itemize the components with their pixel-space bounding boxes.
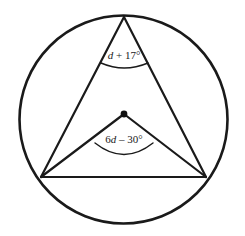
- radius-center-to-left-vertex: [41, 114, 124, 177]
- geometry-canvas: d + 17° 6d – 30°: [0, 0, 245, 236]
- central-angle-label-expression-tail: – 30°: [116, 133, 142, 145]
- circle-outline: [20, 16, 228, 224]
- central-angle-arc-marker: [95, 143, 153, 155]
- circle-geometry-diagram: d + 17° 6d – 30°: [0, 0, 245, 236]
- inscribed-angle-label-expression-tail: + 17°: [113, 49, 140, 61]
- inscribed-angle-arc-marker: [101, 63, 148, 68]
- radius-center-to-right-vertex: [124, 114, 206, 177]
- central-angle-label: 6d – 30°: [105, 133, 142, 145]
- circle-center-point: [121, 111, 128, 118]
- inscribed-angle-label: d + 17°: [108, 49, 141, 61]
